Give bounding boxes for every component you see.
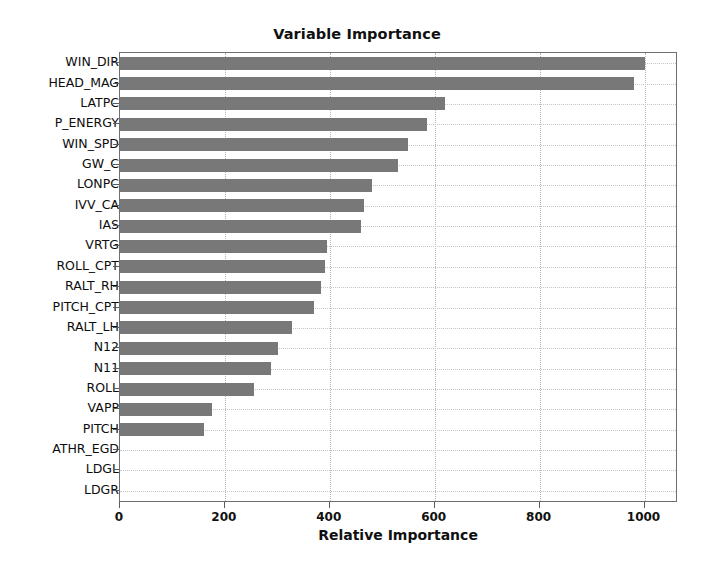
bar: [120, 383, 254, 396]
bar: [120, 321, 292, 334]
y-axis-tick-label: HEAD_MAG: [7, 76, 119, 89]
x-axis-tick-mark: [644, 502, 645, 508]
bar: [120, 179, 372, 192]
x-axis-tick-label: 1000: [627, 510, 660, 524]
y-axis-tick-label: VRTG: [7, 238, 119, 251]
y-axis-tick-label: RALT_RH: [7, 279, 119, 292]
y-axis-tick-label: ROLL: [7, 381, 119, 394]
bar: [120, 138, 408, 151]
x-axis-tick-mark: [434, 502, 435, 508]
x-axis-tick-mark: [224, 502, 225, 508]
y-axis-tick-label: LDGL: [7, 462, 119, 475]
y-axis-tick-label: P_ENERGY: [7, 116, 119, 129]
bar: [120, 57, 645, 70]
gridline-vertical: [540, 53, 541, 501]
x-axis-tick-label: 200: [211, 510, 236, 524]
gridline-vertical: [435, 53, 436, 501]
y-axis-tick-label: IAS: [7, 218, 119, 231]
bar: [120, 301, 314, 314]
y-axis-tick-label: WIN_SPD: [7, 137, 119, 150]
chart-title: Variable Importance: [0, 26, 714, 42]
y-axis-tick-label: RALT_LH: [7, 320, 119, 333]
x-axis-tick-mark: [119, 502, 120, 508]
x-axis-title: Relative Importance: [119, 527, 677, 543]
x-axis-tick-label: 800: [526, 510, 551, 524]
bar: [120, 77, 634, 90]
bar: [120, 159, 398, 172]
x-axis-tick-label: 600: [421, 510, 446, 524]
x-axis-tick-mark: [329, 502, 330, 508]
y-axis-tick-label: ATHR_EGD: [7, 442, 119, 455]
bar: [120, 118, 427, 131]
bar: [120, 220, 361, 233]
bar: [120, 97, 445, 110]
y-axis-tick-label: GW_C: [7, 157, 119, 170]
x-axis-tick-mark: [539, 502, 540, 508]
bar: [120, 423, 204, 436]
y-axis-tick-label: WIN_DIR: [7, 55, 119, 68]
y-axis-tick-label: ROLL_CPT: [7, 259, 119, 272]
y-axis: WIN_DIRHEAD_MAGLATPCP_ENERGYWIN_SPDGW_CL…: [0, 52, 119, 502]
x-axis-tick-label: 400: [316, 510, 341, 524]
y-axis-tick-label: LDGR: [7, 483, 119, 496]
y-axis-tick-label: IVV_CA: [7, 198, 119, 211]
bar: [120, 240, 327, 253]
y-axis-tick-label: PITCH: [7, 422, 119, 435]
bar: [120, 199, 364, 212]
bar: [120, 403, 212, 416]
gridline-horizontal: [120, 491, 676, 492]
y-axis-tick-label: N11: [7, 361, 119, 374]
y-axis-tick-label: VAPP: [7, 401, 119, 414]
plot-area: [119, 52, 677, 502]
y-axis-tick-label: N12: [7, 340, 119, 353]
y-axis-tick-label: LONPC: [7, 177, 119, 190]
bar: [120, 342, 278, 355]
bar: [120, 281, 321, 294]
y-axis-tick-label: LATPC: [7, 96, 119, 109]
gridline-horizontal: [120, 450, 676, 451]
gridline-vertical: [645, 53, 646, 501]
bar: [120, 362, 271, 375]
variable-importance-chart: Variable Importance WIN_DIRHEAD_MAGLATPC…: [0, 0, 714, 574]
bar: [120, 260, 325, 273]
y-axis-tick-label: PITCH_CPT: [7, 300, 119, 313]
x-axis-tick-label: 0: [115, 510, 123, 524]
gridline-horizontal: [120, 470, 676, 471]
